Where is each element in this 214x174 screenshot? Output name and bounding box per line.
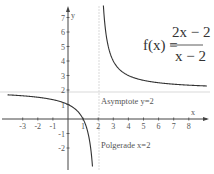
formula-denominator: x − 2 <box>175 48 206 64</box>
x-tick-label: -2 <box>34 122 41 131</box>
y-tick-label: 2 <box>61 86 65 95</box>
pole-label: Polgerade x=2 <box>101 140 150 150</box>
x-tick-label: 2 <box>96 122 100 131</box>
y-tick-label: 7 <box>61 14 65 23</box>
x-tick-label: 4 <box>126 122 130 131</box>
x-axis: -3-2-112345678 x <box>2 108 209 131</box>
x-axis-arrow-icon <box>203 117 209 121</box>
formula: f(x) = 2x − 2 x − 2 <box>143 24 210 64</box>
x-tick-label: 3 <box>111 122 115 131</box>
x-tick-label: -1 <box>50 122 57 131</box>
y-axis: -2-11234567 y <box>58 6 75 170</box>
x-tick-label: 7 <box>172 122 176 131</box>
x-tick-label: 8 <box>187 122 191 131</box>
y-tick-label: -2 <box>58 144 65 153</box>
y-tick-label: 3 <box>61 72 65 81</box>
x-tick-label: -3 <box>19 122 26 131</box>
y-tick-label: 6 <box>61 28 65 37</box>
x-tick-label: 5 <box>142 122 146 131</box>
formula-numerator: 2x − 2 <box>172 24 210 40</box>
y-tick-label: 4 <box>61 57 65 66</box>
y-tick-label: -1 <box>58 130 65 139</box>
function-plot: -3-2-112345678 x -2-11234567 y Asymptote… <box>0 0 214 174</box>
y-tick-label: 5 <box>61 43 65 52</box>
x-ticks: -3-2-112345678 <box>19 118 190 132</box>
y-axis-label: y <box>71 11 75 20</box>
x-tick-label: 6 <box>157 122 161 131</box>
y-axis-arrow-icon <box>66 6 70 12</box>
x-axis-label: x <box>191 108 195 117</box>
asymptote-label: Asymptote y=2 <box>101 96 154 106</box>
